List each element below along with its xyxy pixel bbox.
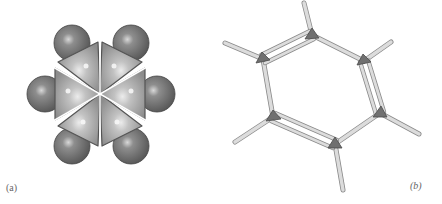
c-h-bonds — [225, 3, 419, 190]
ball-and-stick-benzene-diagram — [200, 0, 442, 204]
space-filling-benzene-diagram — [0, 0, 210, 204]
ball-and-stick-model-panel: (b) — [200, 0, 442, 204]
panel-label-a: (a) — [6, 182, 17, 193]
c-c-single-bonds — [263, 35, 380, 144]
space-filling-model-panel: (a) — [0, 0, 210, 204]
panel-label-b: (b) — [410, 180, 422, 191]
c-c-double-bonds — [261, 31, 384, 148]
